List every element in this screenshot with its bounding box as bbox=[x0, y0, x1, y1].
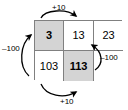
bottom-plus10-arrow bbox=[41, 84, 76, 96]
number-grid-diagram: 3 13 23 103 113 +10 +10 –100 –100 bbox=[0, 0, 128, 110]
grid-cell-r1c1: 3 bbox=[35, 21, 64, 51]
grid-cell-r2c2: 113 bbox=[64, 51, 94, 81]
grid-cell-r2c3 bbox=[94, 51, 123, 81]
bottom-arrow-label: +10 bbox=[60, 98, 74, 106]
number-grid: 3 13 23 103 113 bbox=[34, 20, 122, 80]
left-minus100-arrow bbox=[22, 35, 31, 76]
left-arrow-label: –100 bbox=[2, 45, 20, 53]
top-plus10-arrow bbox=[41, 11, 76, 18]
grid-cell-r1c3: 23 bbox=[94, 21, 123, 51]
top-arrow-label: +10 bbox=[52, 4, 66, 12]
grid-cell-r1c2: 13 bbox=[64, 21, 94, 51]
grid-cell-r2c1: 103 bbox=[35, 51, 64, 81]
